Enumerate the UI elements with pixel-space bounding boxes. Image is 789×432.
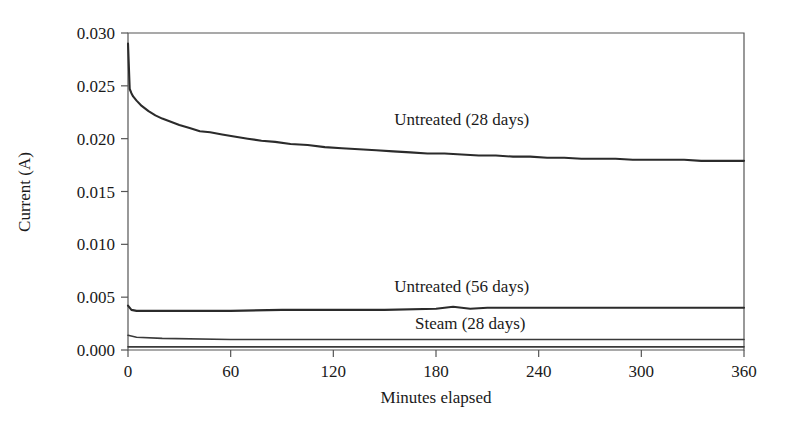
x-axis-ticks <box>128 350 744 357</box>
series-line-untreated-28-days <box>128 44 744 161</box>
y-tick-label: 0.015 <box>77 183 115 202</box>
annotation-steam-28-days: Steam (28 days) <box>415 314 525 333</box>
y-axis-ticks <box>121 33 128 350</box>
y-axis-title: Current (A) <box>15 152 34 232</box>
x-axis-tick-labels: 060120180240300360 <box>124 362 757 381</box>
x-tick-label: 360 <box>731 362 757 381</box>
y-tick-label: 0.020 <box>77 130 115 149</box>
annotation-untreated-56-days: Untreated (56 days) <box>394 277 529 296</box>
chart-canvas: 060120180240300360 0.0000.0050.0100.0150… <box>0 0 789 432</box>
y-tick-label: 0.030 <box>77 24 115 43</box>
plot-border <box>128 33 744 350</box>
x-tick-label: 300 <box>629 362 655 381</box>
series-line-untreated-56-days <box>128 306 744 311</box>
x-tick-label: 240 <box>526 362 552 381</box>
x-tick-label: 120 <box>321 362 347 381</box>
y-tick-label: 0.005 <box>77 288 115 307</box>
y-tick-label: 0.000 <box>77 341 115 360</box>
y-tick-label: 0.025 <box>77 77 115 96</box>
series-annotations: Untreated (28 days)Untreated (56 days)St… <box>394 110 529 333</box>
plot-frame <box>128 33 744 350</box>
data-series-lines <box>128 44 744 347</box>
y-axis-tick-labels: 0.0000.0050.0100.0150.0200.0250.030 <box>77 24 115 360</box>
chart-figure: 060120180240300360 0.0000.0050.0100.0150… <box>0 0 789 432</box>
annotation-untreated-28-days: Untreated (28 days) <box>394 110 529 129</box>
x-axis-title: Minutes elapsed <box>381 388 492 407</box>
y-tick-label: 0.010 <box>77 235 115 254</box>
x-tick-label: 60 <box>222 362 239 381</box>
x-tick-label: 0 <box>124 362 133 381</box>
x-tick-label: 180 <box>423 362 449 381</box>
series-line-steam-28-days <box>128 335 744 339</box>
